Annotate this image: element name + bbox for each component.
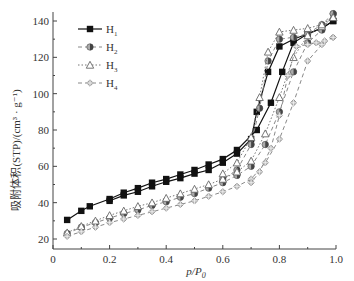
h4-marker-cross [290, 100, 296, 106]
h3-marker [177, 190, 184, 197]
h3-marker [106, 212, 113, 219]
h4-marker-cross [205, 193, 211, 199]
h1-marker [149, 183, 155, 189]
y-tick-label: 60 [38, 160, 50, 172]
h4-marker-cross [163, 205, 169, 211]
h4-marker-cross [121, 216, 127, 222]
h1-marker [268, 100, 274, 106]
series-group [63, 11, 336, 240]
h3-marker [163, 194, 170, 201]
legend-item-h3: H3 [78, 59, 118, 74]
h3-marker [262, 130, 269, 137]
legend-label: H2 [106, 41, 118, 56]
h4-marker-cross [191, 198, 197, 204]
h1-marker [234, 150, 240, 156]
h3-marker [276, 94, 283, 101]
h4-marker-cross [256, 169, 262, 175]
legend-marker-cross [87, 80, 93, 86]
legend-item-h1: H1 [78, 23, 118, 38]
h4-marker-cross [234, 183, 240, 189]
h3-marker [148, 199, 155, 206]
h1-marker [205, 167, 211, 173]
x-axis-label: p/P0 [185, 265, 205, 280]
h1-marker [64, 217, 70, 223]
h4-marker-cross [313, 40, 319, 46]
legend-item-h2: H2 [78, 41, 118, 56]
h3-marker [205, 181, 212, 188]
h1-marker [106, 198, 112, 204]
h4-marker-cross [305, 58, 311, 64]
series-h4 [64, 34, 336, 239]
h1-marker [279, 69, 285, 75]
h4-marker-cross [220, 189, 226, 195]
y-tick-label: 140 [33, 15, 50, 27]
isotherm-chart: 00.20.40.60.81.020406080100120140 H1H2H3… [0, 0, 354, 281]
h4-marker-cross [276, 136, 282, 142]
legend-label: H4 [106, 77, 118, 92]
h1-marker [191, 170, 197, 176]
y-tick-label: 100 [33, 88, 50, 100]
h4-marker-cross [268, 145, 274, 151]
h3-marker [233, 159, 240, 166]
h1-marker [177, 175, 183, 181]
h1-marker [87, 203, 93, 209]
y-tick-label: 20 [38, 233, 50, 245]
x-tick-label: 0.2 [103, 253, 117, 265]
h3-marker [219, 170, 226, 177]
h1-marker [220, 160, 226, 166]
h4-marker-cross [330, 34, 336, 40]
y-tick-label: 80 [38, 124, 50, 136]
x-tick-label: 0.4 [159, 253, 173, 265]
legend-label: H3 [106, 59, 118, 74]
legend-item-h4: H4 [78, 77, 118, 92]
x-tick-label: 1.0 [329, 253, 343, 265]
h1-marker [135, 189, 141, 195]
h1-marker [205, 161, 211, 167]
x-tick-label: 0.6 [216, 253, 230, 265]
x-tick-label: 0.8 [273, 253, 287, 265]
h3-marker [247, 157, 254, 164]
h4-marker-cross [149, 209, 155, 215]
h4-marker-cross [285, 72, 291, 78]
h4-marker-cross [177, 201, 183, 207]
y-tick-label: 120 [33, 51, 50, 63]
h3-marker [191, 185, 198, 192]
x-tick-label: 0 [50, 253, 56, 265]
h4-marker-cross [135, 212, 141, 218]
h1-marker [78, 208, 84, 214]
h3-marker [264, 48, 271, 55]
legend-label: H1 [106, 23, 118, 38]
legend-marker [87, 26, 93, 32]
h3-marker [120, 207, 127, 214]
y-tick-label: 40 [38, 197, 50, 209]
y-axis-label: 吸附体积(STP)/(cm³ · g⁻¹) [9, 89, 23, 211]
h1-marker [121, 192, 127, 198]
h1-marker [163, 179, 169, 185]
legend: H1H2H3H4 [78, 23, 118, 92]
